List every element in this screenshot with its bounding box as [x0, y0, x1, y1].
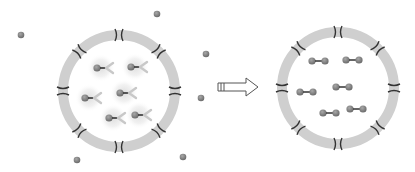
ligand-ball — [346, 105, 353, 112]
ligand-dimer — [342, 56, 362, 63]
ligand-ball — [359, 105, 366, 112]
ligand-receptor-complex — [75, 84, 103, 112]
ligand-ball — [180, 154, 187, 161]
ligand-ball — [332, 83, 339, 90]
ligand-ball — [342, 56, 349, 63]
ligand-ball — [319, 109, 326, 116]
ligand-ball — [332, 109, 339, 116]
ligand-ball — [296, 88, 303, 95]
ligand-dimer — [319, 109, 339, 116]
ligand-ball — [345, 83, 352, 90]
ligand-dimer — [296, 88, 316, 95]
after-cell-group — [276, 26, 400, 150]
before-cell-group — [18, 11, 210, 164]
ligand-ball — [81, 94, 88, 101]
ligand-ball — [308, 57, 315, 64]
free-ligand — [180, 154, 187, 161]
free-ligand — [18, 32, 25, 39]
ligand-ball — [18, 32, 25, 39]
free-ligand — [74, 157, 81, 164]
ligand-receptor-diagram — [0, 0, 415, 172]
ligand-ball — [154, 11, 161, 18]
ligand-receptor-complex — [121, 53, 149, 81]
transition-arrow-icon — [218, 78, 258, 96]
ligand-ball — [198, 95, 205, 102]
free-ligand — [198, 95, 205, 102]
ligand-ball — [127, 63, 134, 70]
ligand-ball — [74, 157, 81, 164]
ligand-ball — [309, 88, 316, 95]
ligand-ball — [355, 56, 362, 63]
ligand-ball — [105, 114, 112, 121]
ligand-ball — [116, 89, 123, 96]
ligand-ball — [321, 57, 328, 64]
ligand-dimer — [332, 83, 352, 90]
ligand-dimer — [346, 105, 366, 112]
ligand-ball — [93, 64, 100, 71]
ligand-receptor-complex — [99, 104, 127, 132]
ligand-receptor-complex — [87, 54, 115, 82]
free-ligand — [154, 11, 161, 18]
ligand-receptor-complex — [125, 101, 153, 129]
ligand-ball — [203, 51, 210, 58]
ligand-ball — [131, 111, 138, 118]
ligand-dimer — [308, 57, 328, 64]
diagram-canvas — [0, 0, 415, 172]
free-ligand — [203, 51, 210, 58]
